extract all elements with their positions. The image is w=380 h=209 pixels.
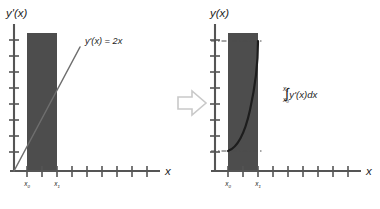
integral-upper-limit: x₁ (282, 85, 288, 92)
x-axis-label: x (365, 165, 373, 177)
shaded-area-derivative (27, 33, 57, 171)
svg-text:∫x₀x₁y'(x)dx: ∫x₀x₁y'(x)dx (282, 85, 318, 103)
integral-annotation: ∫x₀x₁y'(x)dx (282, 85, 318, 103)
shaded-area-integral (228, 33, 258, 171)
integral-lower-limit: x₀ (282, 96, 289, 103)
derivative-function-annotation: y'(x) = 2x (84, 36, 123, 46)
y-axis-label: y(x) (209, 7, 229, 19)
figure-root: y'(x) x y'(x) = 2x x0 x1 (0, 0, 380, 209)
x-tick-label-x1: x1 (254, 180, 261, 189)
x-tick-label-x0: x0 (224, 180, 231, 189)
y-axis-label: y'(x) (5, 7, 28, 19)
derivative-plot-panel: y'(x) x y'(x) = 2x x0 x1 (0, 0, 190, 209)
integral-plot-panel: y(x) x ∫x₀x₁y'(x)dx x0 x1 (190, 0, 380, 209)
x-axis-label: x (164, 165, 172, 177)
x-tick-label-x0: x0 (23, 180, 30, 189)
integral-plot-svg: y(x) x ∫x₀x₁y'(x)dx x0 x1 (190, 0, 380, 209)
derivative-plot-svg: y'(x) x y'(x) = 2x x0 x1 (0, 0, 190, 209)
integral-body: y'(x)dx (288, 89, 318, 100)
x-tick-label-x1: x1 (53, 180, 60, 189)
